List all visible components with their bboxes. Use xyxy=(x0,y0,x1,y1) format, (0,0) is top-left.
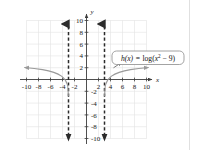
y-tick-label: -2 xyxy=(91,88,97,96)
x-tick-label: 4 xyxy=(109,83,113,91)
x-tick-label: -6 xyxy=(48,83,54,91)
figure-background xyxy=(0,0,200,150)
y-tick-label: 10 xyxy=(76,17,84,25)
y-tick-label: -8 xyxy=(91,123,97,131)
x-tick-label: -4 xyxy=(60,83,66,91)
callout-log: log( xyxy=(142,54,155,63)
y-tick-label: -10 xyxy=(91,135,101,143)
callout-equals: = xyxy=(136,54,140,63)
x-tick-label: -2 xyxy=(72,83,78,91)
callout-box[interactable]: h(x)=log(x2 − 9) xyxy=(112,51,184,65)
callout-arg: (x) xyxy=(125,54,134,63)
callout-formula: h(x)=log(x2 − 9) xyxy=(121,53,176,63)
y-tick-label: -4 xyxy=(91,100,97,108)
y-tick-label: 2 xyxy=(80,64,84,72)
graph-figure: -10 -8 -6 -4 -2 2 4 6 8 10 10 8 6 4 2 -2… xyxy=(0,0,200,150)
figure-page: -10 -8 -6 -4 -2 2 4 6 8 10 10 8 6 4 2 -2… xyxy=(0,0,200,150)
x-tick-label: -10 xyxy=(22,83,32,91)
x-tick-label: 10 xyxy=(143,83,151,91)
y-tick-label: -6 xyxy=(91,112,97,120)
y-tick-label: 8 xyxy=(80,29,84,37)
callout-tail: − 9) xyxy=(161,54,176,63)
x-tick-label: 8 xyxy=(133,83,137,91)
x-tick-label: -8 xyxy=(36,83,42,91)
x-tick-label: 6 xyxy=(121,83,125,91)
x-tick-label: 2 xyxy=(97,83,101,91)
y-tick-label: 4 xyxy=(80,52,84,60)
y-tick-label: 6 xyxy=(80,41,84,49)
